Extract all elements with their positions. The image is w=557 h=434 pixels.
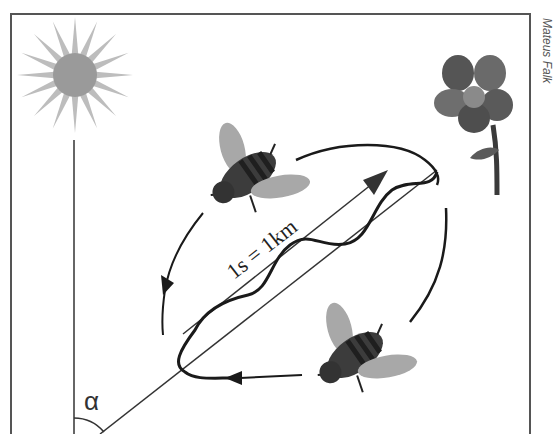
bee-top-icon [179, 97, 319, 241]
flower-icon [434, 55, 513, 195]
author-credit: Mateus Falk [530, 18, 554, 138]
sun-ray [71, 93, 78, 133]
waggle-path [178, 172, 437, 378]
sun-ray [17, 71, 57, 78]
direction-line [100, 170, 437, 434]
return-path-bottom [240, 375, 302, 378]
return-loop-right [410, 208, 446, 322]
scale-arrow-icon [363, 170, 388, 195]
return-loop-left [162, 213, 203, 335]
return-arrow-icon [225, 371, 242, 385]
bee-bottom-icon [286, 277, 426, 421]
angle-label: α [84, 386, 99, 416]
waggle-dance-diagram: α 1s = 1km [0, 0, 557, 434]
sun-icon [17, 17, 133, 133]
angle-arc [74, 418, 104, 432]
sun-ray [93, 71, 133, 78]
sun-ray [71, 17, 78, 57]
